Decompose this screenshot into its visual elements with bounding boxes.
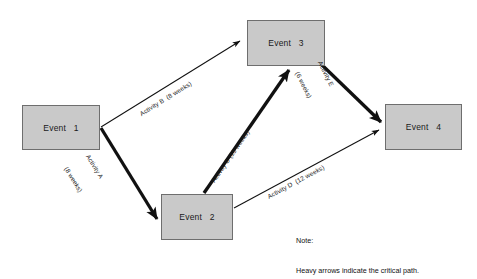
edge-label-activity-a-line2: (8 weeks)	[62, 165, 84, 194]
edge-label-activity-a-line1: Activity A	[83, 153, 105, 182]
note-heading: Note:	[296, 236, 419, 246]
node-event-3-label: Event 3	[268, 38, 303, 48]
edge-label-activity-e-line1: Activity E	[315, 59, 335, 88]
node-event-4-label: Event 4	[406, 122, 441, 132]
node-event-1[interactable]: Event 1	[22, 105, 100, 150]
node-event-2-label: Event 2	[179, 212, 214, 222]
edge-label-activity-e-line2: (6 weeks)	[293, 71, 313, 100]
node-event-3[interactable]: Event 3	[247, 20, 325, 66]
node-event-2[interactable]: Event 2	[161, 194, 233, 240]
note-block: Note: Heavy arrows indicate the critical…	[296, 216, 419, 279]
node-event-4[interactable]: Event 4	[385, 104, 462, 150]
node-event-1-label: Event 1	[43, 123, 78, 133]
note-text: Heavy arrows indicate the critical path.	[296, 266, 419, 276]
